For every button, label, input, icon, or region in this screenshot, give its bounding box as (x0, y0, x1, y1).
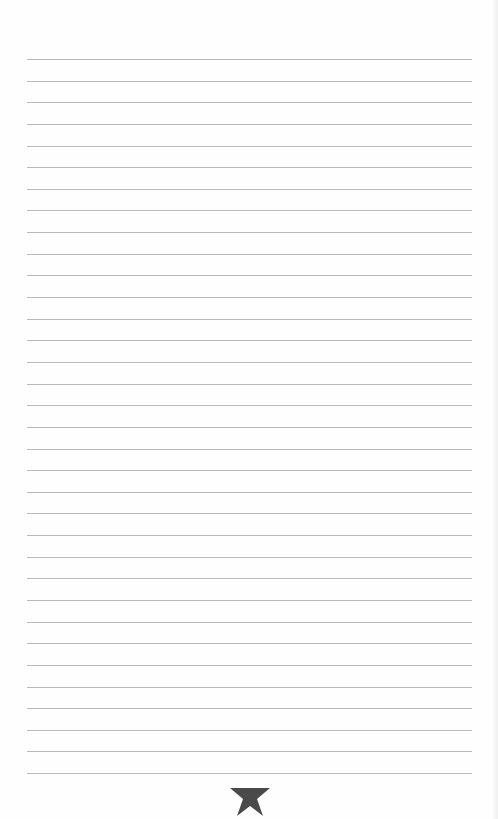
ruled-line (27, 167, 472, 168)
ruled-line (27, 405, 472, 406)
ruled-line (27, 730, 472, 731)
ruled-line (27, 643, 472, 644)
ruled-line (27, 470, 472, 471)
ruled-line (27, 232, 472, 233)
ruled-line (27, 449, 472, 450)
ruled-line (27, 535, 472, 536)
star-icon (230, 788, 270, 816)
ruled-line (27, 102, 472, 103)
notepaper-page (0, 0, 498, 819)
ruled-line (27, 275, 472, 276)
ruled-line (27, 773, 472, 774)
ruled-line (27, 189, 472, 190)
ruled-line (27, 427, 472, 428)
ruled-line (27, 81, 472, 82)
ruled-line (27, 557, 472, 558)
ruled-line (27, 124, 472, 125)
ruled-line (27, 146, 472, 147)
ruled-line (27, 665, 472, 666)
ruled-line (27, 622, 472, 623)
ruled-line (27, 59, 472, 60)
ruled-line (27, 708, 472, 709)
ruled-line (27, 297, 472, 298)
ruled-line (27, 751, 472, 752)
ruled-line (27, 362, 472, 363)
ruled-lines (0, 0, 498, 819)
ruled-line (27, 319, 472, 320)
ruled-line (27, 600, 472, 601)
ruled-line (27, 340, 472, 341)
ruled-line (27, 210, 472, 211)
ruled-line (27, 384, 472, 385)
ruled-line (27, 578, 472, 579)
page-edge (493, 0, 498, 819)
ruled-line (27, 513, 472, 514)
ruled-line (27, 254, 472, 255)
ruled-line (27, 492, 472, 493)
ruled-line (27, 687, 472, 688)
